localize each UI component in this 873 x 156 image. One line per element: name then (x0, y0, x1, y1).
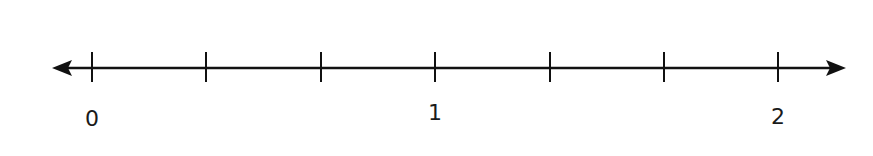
tick-label-2: 2 (771, 106, 785, 128)
number-line (0, 0, 873, 156)
tick-label-1: 1 (428, 102, 442, 124)
tick-label-0: 0 (85, 108, 99, 130)
